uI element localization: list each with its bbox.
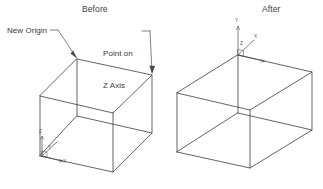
- diagram-canvas: [0, 0, 323, 189]
- left-cube-bottom-face: [40, 116, 152, 172]
- annotation-point-on-z-axis-line2: Z Axis: [103, 81, 133, 92]
- diagram-root: Before After New Origin Point on Z Axis …: [0, 0, 323, 189]
- ucs-before-label-y: Y: [48, 146, 51, 151]
- ucs-after-label-y: Y: [235, 19, 238, 24]
- annotation-point-on-z-axis: Point on Z Axis: [103, 27, 133, 113]
- right-cube-wireframe: [177, 55, 312, 168]
- leader-new-origin-arrowhead: [71, 51, 78, 59]
- leader-point-z-arrowhead: [149, 66, 155, 75]
- annotation-point-on-z-axis-line1: Point on: [103, 49, 133, 60]
- ucs-before-label-x: X: [63, 160, 66, 165]
- panel-title-before: Before: [82, 5, 108, 15]
- annotation-new-origin: New Origin: [7, 26, 47, 35]
- right-cube-bottom-face: [177, 113, 312, 168]
- ucs-after-label-x: X: [254, 35, 257, 40]
- left-cube-top-face: [40, 59, 152, 113]
- panel-title-after: After: [262, 5, 280, 15]
- leader-new-origin: [50, 30, 77, 59]
- right-cube-top-face: [177, 55, 312, 110]
- ucs-after-label-z: Z: [240, 42, 243, 47]
- left-cube-wireframe: [40, 59, 152, 172]
- ucs-before-label-z: Z: [39, 130, 42, 135]
- ucs-icon-before: [41, 136, 64, 162]
- leader-point-on-z-axis: [142, 31, 155, 74]
